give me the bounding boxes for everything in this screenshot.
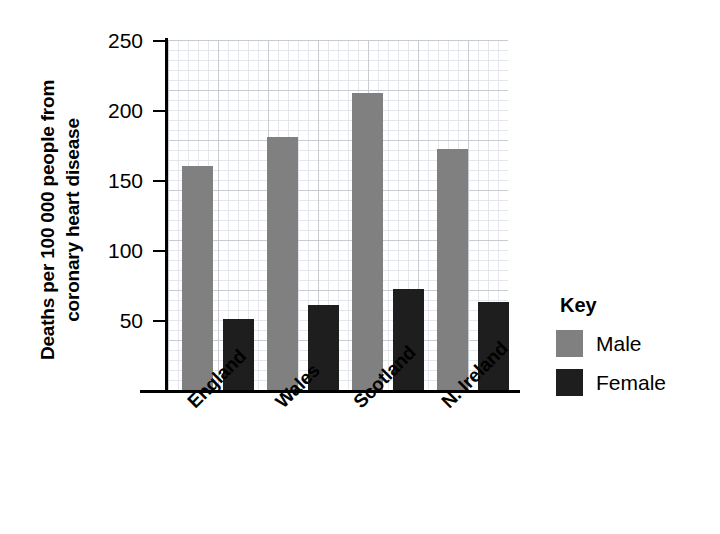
y-tick-label-200: 200	[95, 100, 143, 121]
y-axis-title-line-2: coronary heart disease	[60, 118, 85, 322]
y-axis-title-line-1: Deaths per 100 000 people from	[35, 80, 60, 360]
legend-label-male: Male	[596, 333, 642, 355]
y-tick-label-150: 150	[95, 170, 143, 191]
y-tick-label-50: 50	[95, 310, 143, 331]
y-tick-label-250: 250	[95, 30, 143, 51]
y-tick-label-50-wrap: 50	[95, 310, 143, 331]
legend-label-female: Female	[596, 372, 666, 394]
y-tick-label-150-wrap: 150	[95, 170, 143, 191]
legend-item-female: Female	[556, 369, 716, 396]
bar-n-ireland-male	[437, 149, 468, 390]
y-tick-label-250-wrap: 250	[95, 30, 143, 51]
legend-swatch-male	[556, 330, 583, 357]
legend-item-male: Male	[556, 330, 716, 357]
y-axis-title: Deaths per 100 000 people from coronary …	[32, 10, 88, 430]
y-tick-label-100-wrap: 100	[95, 240, 143, 261]
y-tick-label-100: 100	[95, 240, 143, 261]
bar-wales-male	[267, 137, 298, 390]
legend-title: Key	[560, 294, 716, 316]
legend-swatch-female	[556, 369, 583, 396]
bar-chart-figure: Deaths per 100 000 people from coronary …	[0, 0, 720, 534]
bar-england-male	[182, 166, 213, 390]
bar-scotland-male	[352, 93, 383, 390]
bars-layer	[168, 40, 508, 390]
y-tick-label-200-wrap: 200	[95, 100, 143, 121]
legend: Key Male Female	[556, 294, 716, 408]
